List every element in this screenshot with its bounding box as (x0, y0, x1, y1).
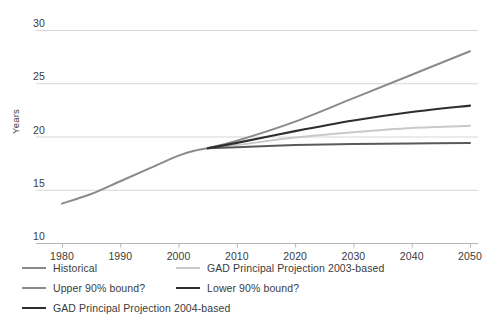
line-chart: Years 3025201510 19801990200020102020203… (0, 0, 500, 332)
legend-label: Historical (53, 262, 97, 274)
legend-item: Lower 90% bound? (176, 282, 299, 294)
y-axis-tick-label: 15 (33, 177, 59, 189)
legend-label: GAD Principal Projection 2004-based (53, 302, 230, 314)
x-axis-tick-label: 2000 (157, 250, 201, 262)
x-axis-tick-label: 1980 (40, 250, 84, 262)
x-axis-tick-label: 2020 (273, 250, 317, 262)
legend-item: GAD Principal Projection 2004-based (22, 302, 230, 314)
x-axis-tick-label: 2010 (215, 250, 259, 262)
legend-label: GAD Principal Projection 2003-based (207, 262, 384, 274)
x-axis-tick-label: 2050 (448, 250, 492, 262)
y-axis-tick-label: 10 (33, 230, 59, 242)
y-axis-tick-label: 25 (33, 70, 59, 82)
legend-item: GAD Principal Projection 2003-based (176, 262, 384, 274)
data-series-group (62, 51, 470, 203)
legend-swatch-line-icon (22, 287, 46, 289)
y-axis-tick-label: 20 (33, 124, 59, 136)
legend-item: Historical (22, 262, 97, 274)
series-line (62, 148, 208, 203)
legend-item: Upper 90% bound? (22, 282, 145, 294)
legend-label: Upper 90% bound? (53, 282, 145, 294)
x-axis-tick-label: 2040 (390, 250, 434, 262)
legend-swatch-line-icon (176, 267, 200, 269)
legend-label: Lower 90% bound? (207, 282, 299, 294)
chart-legend: HistoricalGAD Principal Projection 2003-… (0, 262, 500, 332)
legend-swatch-line-icon (22, 267, 46, 269)
y-axis-tick-label: 30 (33, 17, 59, 29)
x-axis-tick-label: 2030 (331, 250, 375, 262)
gridlines (36, 31, 478, 244)
x-axis-tick-marks (63, 244, 471, 248)
x-axis-tick-label: 1990 (98, 250, 142, 262)
legend-swatch-line-icon (176, 287, 200, 289)
legend-swatch-line-icon (22, 307, 46, 310)
